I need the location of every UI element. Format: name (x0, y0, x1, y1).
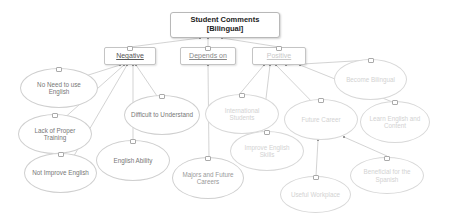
connector-handle-icon (127, 46, 133, 51)
connector-handle-icon (52, 113, 58, 118)
node-label: Beneficial for the Spanish (357, 168, 417, 182)
node-lack-proper-training[interactable]: Lack of Proper Training (18, 114, 92, 154)
connector-handle-icon (318, 98, 324, 103)
connector-handle-icon (56, 67, 62, 72)
node-future-career[interactable]: Future Career (284, 99, 358, 140)
node-not-improve-english[interactable]: Not Improve English (24, 153, 97, 193)
category-negative[interactable]: Negative (104, 47, 156, 65)
node-label: Useful Workplace (291, 191, 340, 198)
node-english-ability[interactable]: English Ability (96, 140, 170, 181)
connector-handle-icon (276, 46, 282, 51)
node-label: English Ability (114, 157, 153, 164)
node-difficult-to-understand[interactable]: Difficult to Understand (124, 95, 200, 135)
category-label: Positive (267, 52, 292, 60)
root-subtitle: [Bilingual] (207, 25, 244, 34)
category-label: Negative (116, 52, 144, 60)
connector-handle-icon (264, 130, 270, 135)
root-node-student-comments[interactable]: Student Comments [Bilingual] (170, 12, 280, 38)
connector-handle-icon (159, 94, 165, 99)
node-label: Difficult to Understand (131, 111, 193, 118)
connector-handle-icon (239, 93, 245, 98)
node-learn-english-content[interactable]: Learn English and Content (360, 101, 430, 143)
node-label: Lack of Proper Training (25, 127, 85, 141)
node-majors-future-careers[interactable]: Majors and Future Careers (172, 157, 244, 199)
node-no-need-english[interactable]: No Need to use English (20, 68, 98, 108)
node-label: Improve English Skills (237, 144, 297, 158)
category-label: Depends on (189, 52, 227, 60)
connector-handle-icon (368, 58, 374, 63)
category-positive[interactable]: Positive (252, 47, 306, 65)
category-depends-on[interactable]: Depends on (180, 47, 236, 65)
connector-handle-icon (205, 46, 211, 51)
node-international-students[interactable]: International Students (205, 94, 279, 134)
node-label: Future Career (301, 116, 340, 123)
node-become-bilingual[interactable]: Become Bilingual (334, 59, 407, 100)
node-label: Learn English and Content (367, 115, 423, 129)
node-label: Not Improve English (32, 169, 89, 176)
connector-handle-icon (130, 139, 136, 144)
node-useful-workplace[interactable]: Useful Workplace (280, 176, 351, 213)
node-improve-english-skills[interactable]: Improve English Skills (230, 131, 304, 171)
node-label: Become Bilingual (346, 76, 395, 83)
connector-handle-icon (392, 100, 398, 105)
node-label: International Students (212, 107, 272, 121)
connector-handle-icon (205, 156, 211, 161)
node-beneficial-spanish[interactable]: Beneficial for the Spanish (350, 157, 424, 194)
connector-handle-icon (58, 152, 64, 157)
connector-handle-icon (384, 156, 390, 161)
node-label: No Need to use English (27, 81, 91, 95)
node-label: Majors and Future Careers (179, 171, 237, 185)
connector-handle-icon (313, 175, 319, 180)
